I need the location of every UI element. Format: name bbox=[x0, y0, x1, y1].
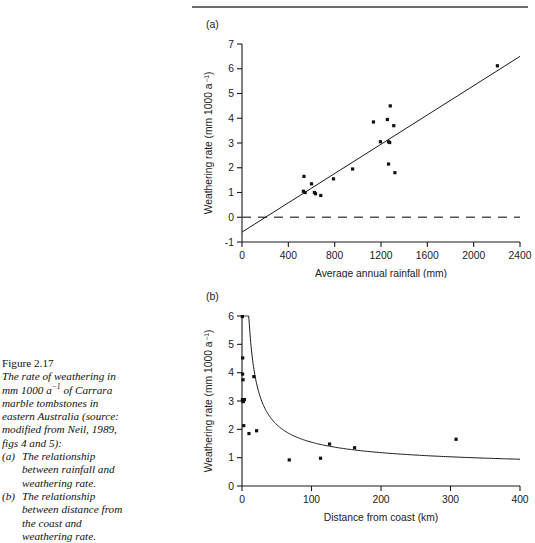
x-axis-title: Distance from coast (km) bbox=[324, 512, 438, 523]
caption-line-4: modified from Neil, 1989, bbox=[2, 423, 154, 436]
regression-line bbox=[242, 56, 520, 232]
y-axis-title: Weathering rate (mm 1000 a⁻¹) bbox=[203, 72, 214, 215]
y-tick-label: 6 bbox=[228, 63, 234, 74]
data-point bbox=[386, 118, 389, 121]
x-tick-label: 1600 bbox=[416, 250, 439, 261]
y-tick-label: 1 bbox=[228, 452, 234, 463]
data-point bbox=[288, 458, 291, 461]
y-tick-label: 2 bbox=[228, 162, 234, 173]
data-point bbox=[241, 356, 244, 359]
data-point bbox=[353, 446, 356, 449]
caption-line-0: The rate of weathering in bbox=[2, 370, 154, 383]
subcaption-b-line-3: weathering rate. bbox=[22, 530, 96, 542]
data-point bbox=[304, 191, 307, 194]
caption-line-1: mm 1000 a−1 of Carrara bbox=[2, 384, 154, 397]
caption-line-5: figs 4 and 5): bbox=[2, 437, 154, 450]
data-point bbox=[255, 429, 258, 432]
data-point bbox=[387, 162, 390, 165]
data-point bbox=[388, 141, 391, 144]
scatter-plot-distance-vs-weathering: 01234560100200300400Distance from coast … bbox=[180, 288, 532, 538]
y-tick-label: 6 bbox=[228, 311, 234, 322]
y-tick-label: 4 bbox=[228, 113, 234, 124]
figure-caption: Figure 2.17 The rate of weathering in mm… bbox=[2, 357, 154, 543]
data-point bbox=[389, 104, 392, 107]
y-tick-label: 0 bbox=[228, 212, 234, 223]
y-tick-label: 1 bbox=[228, 187, 234, 198]
caption-line-2: marble tombstones in bbox=[2, 397, 154, 410]
subcaption-a-line-2: weathering rate. bbox=[22, 477, 96, 489]
y-tick-label: 7 bbox=[228, 39, 234, 50]
subcaption-b-text: The relationship between distance from t… bbox=[22, 490, 154, 543]
x-tick-label: 2400 bbox=[509, 250, 532, 261]
data-point bbox=[241, 315, 244, 318]
caption-exponent: −1 bbox=[52, 382, 61, 391]
subcaption-b-line-2: the coast and bbox=[22, 517, 82, 529]
data-point bbox=[332, 177, 335, 180]
subcaption-a-text: The relationship between rainfall and we… bbox=[22, 450, 154, 490]
x-tick-label: 1200 bbox=[370, 250, 393, 261]
subcaption-b: (b) The relationship between distance fr… bbox=[2, 490, 154, 543]
x-tick-label: 100 bbox=[303, 494, 320, 505]
x-tick-label: 400 bbox=[511, 494, 528, 505]
subcaption-b-line-0: The relationship bbox=[22, 490, 95, 502]
x-tick-label: 400 bbox=[280, 250, 297, 261]
x-tick-label: 0 bbox=[239, 250, 245, 261]
x-tick-label: 2000 bbox=[462, 250, 485, 261]
figure-number: Figure 2.17 bbox=[2, 357, 154, 370]
y-tick-label: -1 bbox=[225, 237, 234, 248]
data-point bbox=[393, 171, 396, 174]
y-axis-title: Weathering rate (mm 1000 a⁻¹) bbox=[203, 330, 214, 473]
x-tick-label: 800 bbox=[326, 250, 343, 261]
y-tick-label: 3 bbox=[228, 396, 234, 407]
y-tick-label: 2 bbox=[228, 424, 234, 435]
data-point bbox=[310, 182, 313, 185]
data-point bbox=[243, 398, 246, 401]
data-point bbox=[392, 124, 395, 127]
data-point bbox=[241, 378, 244, 381]
data-point bbox=[454, 438, 457, 441]
data-point bbox=[252, 375, 255, 378]
x-tick-label: 200 bbox=[372, 494, 389, 505]
data-point bbox=[247, 432, 250, 435]
data-point bbox=[302, 175, 305, 178]
subcaption-a-line-1: between rainfall and bbox=[22, 463, 115, 475]
subcaption-a-marker: (a) bbox=[2, 450, 22, 490]
top-rule-divider bbox=[192, 6, 528, 8]
scatter-plot-rainfall-vs-weathering: -10123456704008001200160020002400Average… bbox=[180, 10, 532, 278]
data-point bbox=[314, 192, 317, 195]
x-tick-label: 300 bbox=[442, 494, 459, 505]
x-axis-title: Average annual rainfall (mm) bbox=[315, 268, 447, 278]
data-point bbox=[319, 457, 322, 460]
y-tick-label: 4 bbox=[228, 367, 234, 378]
chart-panel-b: (b) 01234560100200300400Distance from co… bbox=[180, 288, 532, 538]
data-point bbox=[351, 167, 354, 170]
subcaption-a-line-0: The relationship bbox=[22, 450, 95, 462]
data-point bbox=[328, 442, 331, 445]
y-tick-label: 5 bbox=[228, 88, 234, 99]
subcaption-a: (a) The relationship between rainfall an… bbox=[2, 450, 154, 490]
y-tick-label: 0 bbox=[228, 481, 234, 492]
fit-curve bbox=[242, 316, 520, 459]
subcaption-b-marker: (b) bbox=[2, 490, 22, 543]
data-point bbox=[241, 372, 244, 375]
caption-line-3: eastern Australia (source: bbox=[2, 410, 154, 423]
data-point bbox=[372, 120, 375, 123]
data-point bbox=[379, 140, 382, 143]
y-tick-label: 3 bbox=[228, 138, 234, 149]
data-point bbox=[319, 194, 322, 197]
x-tick-label: 0 bbox=[239, 494, 245, 505]
y-tick-label: 5 bbox=[228, 339, 234, 350]
data-point bbox=[242, 424, 245, 427]
data-point bbox=[496, 64, 499, 67]
subcaption-b-line-1: between distance from bbox=[22, 503, 122, 515]
chart-panel-a: (a) -10123456704008001200160020002400Ave… bbox=[180, 10, 532, 278]
